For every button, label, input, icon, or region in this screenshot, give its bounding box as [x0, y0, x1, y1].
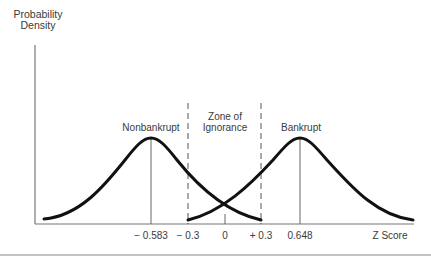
tick-label-bankrupt-mean: 0.648 [287, 230, 312, 241]
zone-label-line2: Ignorance [203, 122, 247, 133]
tick-label-nonbankrupt-mean: − 0.583 [134, 230, 168, 241]
bankrupt-label: Bankrupt [281, 122, 321, 133]
zone-label-line1: Zone of [203, 111, 247, 122]
tick-label-plus-0.3: + 0.3 [250, 230, 273, 241]
nonbankrupt-label: Nonbankrupt [122, 122, 179, 133]
tick-label-minus-0.3: − 0.3 [177, 230, 200, 241]
zone-of-ignorance-label: Zone of Ignorance [203, 111, 247, 133]
tick-label-zero: 0 [222, 230, 228, 241]
y-axis-label-line2: Density [13, 20, 62, 31]
x-axis-label: Z Score [372, 230, 407, 241]
y-axis-label: Probability Density [13, 9, 62, 31]
nonbankrupt-curve [44, 138, 261, 220]
